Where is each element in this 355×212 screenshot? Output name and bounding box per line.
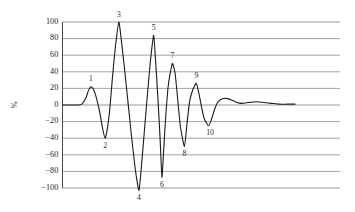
y-axis-tick-label: 20 [33,84,59,92]
data-series-line [63,22,296,191]
data-point-label: 3 [113,11,125,19]
y-axis-tick-label: 80 [33,34,59,42]
y-axis-tick-label: 60 [33,51,59,59]
y-axis-tick-label: 100 [33,18,59,26]
y-axis-tick-label: 40 [33,68,59,76]
data-point-label: 4 [133,194,145,202]
y-axis-tick-label: −100 [33,184,59,192]
data-point-label: 1 [85,75,97,83]
y-axis-tick-label: −40 [33,134,59,142]
data-point-label: 5 [148,24,160,32]
data-point-label: 8 [178,150,190,158]
y-axis-tick-label: −80 [33,167,59,175]
y-axis-title: % [11,102,19,109]
data-point-label: 6 [156,181,168,189]
data-point-label: 2 [99,142,111,150]
y-axis-tick-label: −20 [33,117,59,125]
data-point-label: 7 [166,52,178,60]
y-axis-tick-label: −60 [33,151,59,159]
chart-figure: % 100806040200−20−40−60−80−100 123456789… [0,0,355,212]
data-point-label: 9 [190,72,202,80]
data-point-label: 10 [204,129,216,137]
y-axis-tick-label: 0 [33,101,59,109]
